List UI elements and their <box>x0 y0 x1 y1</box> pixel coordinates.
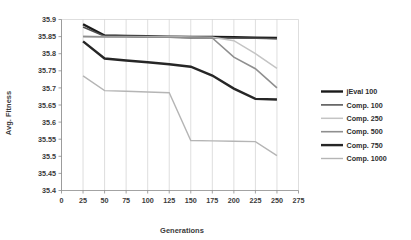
y-axis-label: Avg. Fitness <box>4 91 13 135</box>
legend-label-1: Comp. 100 <box>347 101 383 110</box>
x-tick-label-11: 275 <box>293 196 305 205</box>
x-tick-label-2: 50 <box>101 196 109 205</box>
x-tick-label-7: 175 <box>206 196 218 205</box>
y-tick-label-10: 35.9 <box>42 15 56 24</box>
y-tick-label-3: 35.55 <box>38 135 56 144</box>
y-tick-label-0: 35.4 <box>42 186 56 195</box>
x-tick-label-1: 25 <box>79 196 87 205</box>
x-tick-label-3: 75 <box>122 196 130 205</box>
legend-label-5: Comp. 1000 <box>347 154 387 163</box>
y-tick-label-4: 35.6 <box>42 118 56 127</box>
line-chart: 35.435.4535.535.5535.635.6535.735.7535.8… <box>0 0 411 240</box>
x-tick-label-9: 225 <box>249 196 261 205</box>
legend-label-4: Comp. 750 <box>347 141 383 150</box>
x-axis-label: Generations <box>160 226 204 235</box>
x-tick-label-8: 200 <box>228 196 240 205</box>
x-tick-label-0: 0 <box>60 196 64 205</box>
y-tick-label-2: 35.5 <box>42 152 56 161</box>
legend-label-3: Comp. 500 <box>347 127 383 136</box>
y-tick-label-1: 35.45 <box>38 169 56 178</box>
x-tick-label-6: 150 <box>185 196 197 205</box>
y-tick-label-6: 35.7 <box>42 84 56 93</box>
legend-label-2: Comp. 250 <box>347 114 383 123</box>
chart-canvas: 35.435.4535.535.5535.635.6535.735.7535.8… <box>0 0 411 240</box>
y-tick-label-8: 35.8 <box>42 49 56 58</box>
y-tick-label-9: 35.85 <box>38 32 56 41</box>
y-tick-label-5: 35.65 <box>38 101 56 110</box>
y-tick-label-7: 35.75 <box>38 66 56 75</box>
x-tick-label-5: 125 <box>163 196 175 205</box>
x-tick-label-4: 100 <box>142 196 154 205</box>
x-tick-label-10: 250 <box>271 196 283 205</box>
legend-label-0: jEval 100 <box>346 87 378 96</box>
